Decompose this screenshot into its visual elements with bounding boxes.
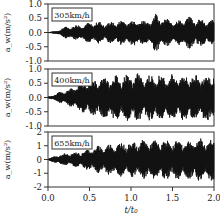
y-tick-label: 1 bbox=[37, 141, 42, 151]
y-tick-label: 1.0 bbox=[28, 64, 42, 74]
y-tick-label: -0.5 bbox=[26, 107, 42, 117]
y-tick-label: 0.5 bbox=[28, 78, 42, 88]
y-axis-label: a_w(m/s²) bbox=[3, 140, 12, 179]
x-tick-label: 2.0 bbox=[207, 193, 220, 203]
x-tick-label: 0.5 bbox=[83, 193, 97, 203]
y-axis-label: a_w(m/s²) bbox=[3, 13, 12, 52]
y-tick-label: 1.0 bbox=[28, 0, 42, 9]
y-tick-label: 0.5 bbox=[28, 13, 42, 23]
y-tick-label: -1 bbox=[34, 168, 42, 178]
y-tick-label: -2 bbox=[34, 182, 42, 192]
y-tick-label: 0.0 bbox=[28, 93, 42, 103]
y-tick-label: 0 bbox=[37, 155, 42, 165]
speed-label: 655km/h bbox=[54, 139, 90, 148]
y-tick-label: 0.0 bbox=[28, 28, 42, 38]
y-tick-label: -0.5 bbox=[26, 42, 42, 52]
speed-label: 400km/h bbox=[54, 76, 90, 85]
x-tick-label: 1.0 bbox=[124, 193, 138, 203]
y-tick-label: 2 bbox=[37, 127, 42, 137]
chart-svg: 1.00.50.0-0.5-1.0305km/ha_w(m/s²)1.00.50… bbox=[0, 0, 220, 219]
x-axis-label: t/t₀ bbox=[124, 205, 138, 215]
speed-label: 305km/h bbox=[54, 11, 90, 20]
y-axis-label: a_w(m/s²) bbox=[3, 78, 12, 117]
x-tick-label: 1.5 bbox=[166, 193, 180, 203]
x-tick-label: 0.0 bbox=[41, 193, 55, 203]
